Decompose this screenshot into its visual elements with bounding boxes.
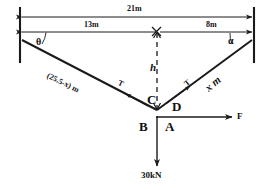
alpha-angle-label: α [228, 36, 234, 46]
height-label: h [150, 62, 156, 73]
free-body-diagram-svg [0, 0, 274, 190]
left-tension-arrow [126, 94, 148, 106]
theta-angle-arc [42, 33, 46, 45]
node-b-label: B [139, 120, 148, 133]
left-segment-label: 13m [84, 21, 99, 29]
node-c-label: C [147, 93, 156, 106]
right-segment-label: 8m [206, 21, 217, 29]
node-a-label: A [165, 120, 174, 133]
horizontal-force-label: F [237, 112, 243, 121]
total-span-label: 21m [127, 5, 142, 13]
node-d-label: D [172, 100, 181, 113]
theta-angle-label: θ [36, 37, 41, 47]
diagram-canvas: 21m 13m 8m h θ α (25.5-x) m x m T T C D … [0, 0, 274, 190]
vertical-load-label: 30kN [141, 171, 162, 180]
joint-point [156, 116, 158, 118]
